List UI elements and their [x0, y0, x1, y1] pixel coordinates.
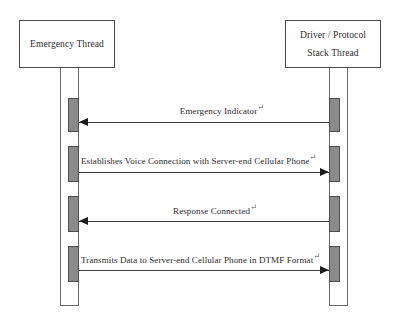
message-arrowhead-3 — [79, 217, 88, 225]
message-line-2[interactable] — [79, 172, 329, 173]
activation-bar-driver-protocol-stack-thread-1 — [329, 98, 340, 132]
line-break-mark-icon-3: ↵ — [250, 203, 257, 212]
sequence-diagram-canvas: Emergency Thread Driver / Protocol Stack… — [0, 0, 396, 320]
line-break-mark-icon-1: ↵ — [257, 103, 264, 112]
message-label-1: Emergency Indicator↵ — [180, 103, 264, 116]
activation-bar-emergency-thread-1 — [68, 98, 79, 132]
participant-box-driver-protocol-stack-thread[interactable]: Driver / Protocol Stack Thread — [285, 20, 381, 68]
line-break-mark-icon-2: ↵ — [309, 153, 316, 162]
message-line-4[interactable] — [79, 270, 329, 271]
line-break-mark-icon-4: ↵ — [313, 252, 320, 261]
activation-bar-emergency-thread-2 — [68, 146, 79, 182]
activation-bar-emergency-thread-4 — [68, 246, 79, 282]
message-label-2: Establishes Voice Connection with Server… — [81, 153, 316, 166]
activation-bar-emergency-thread-3 — [68, 196, 79, 232]
activation-bar-driver-protocol-stack-thread-3 — [329, 196, 340, 232]
message-arrowhead-1 — [79, 118, 88, 126]
activation-bar-driver-protocol-stack-thread-4 — [329, 246, 340, 282]
participant-label-emergency-thread: Emergency Thread — [30, 35, 104, 53]
message-label-3: Response Connected↵ — [173, 203, 257, 216]
message-arrowhead-4 — [320, 266, 329, 274]
participant-box-emergency-thread[interactable]: Emergency Thread — [19, 20, 115, 68]
message-arrowhead-2 — [320, 168, 329, 176]
message-line-1[interactable] — [79, 122, 329, 123]
participant-label-driver-protocol-line2: Stack Thread — [307, 44, 358, 62]
participant-label-driver-protocol-line1: Driver / Protocol — [300, 26, 366, 44]
message-label-4: Transmits Data to Server-end Cellular Ph… — [81, 252, 320, 265]
activation-bar-driver-protocol-stack-thread-2 — [329, 146, 340, 182]
message-line-3[interactable] — [79, 221, 329, 222]
